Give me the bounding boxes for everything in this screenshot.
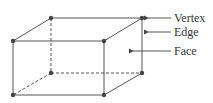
cuboid-diagram: Vertex Edge Face [0, 0, 213, 103]
vertex-dot [11, 39, 15, 43]
vertex-dot [102, 93, 106, 97]
edge-top-left-depth [13, 18, 51, 41]
vertex-dot [140, 16, 144, 20]
label-face: Face [174, 44, 197, 58]
vertex-dot [11, 93, 15, 97]
vertex-dot [102, 39, 106, 43]
vertex-dot [49, 71, 53, 75]
vertex-dot [140, 71, 144, 75]
vertices [11, 16, 144, 97]
edge-bottom-right-depth [104, 73, 142, 95]
edge-top-right-depth [104, 18, 142, 41]
label-vertex: Vertex [174, 11, 205, 25]
vertex-dot [49, 16, 53, 20]
hidden-edge-bottom-left-depth [13, 73, 51, 95]
label-edge: Edge [174, 25, 199, 39]
label-arrows [133, 18, 171, 51]
